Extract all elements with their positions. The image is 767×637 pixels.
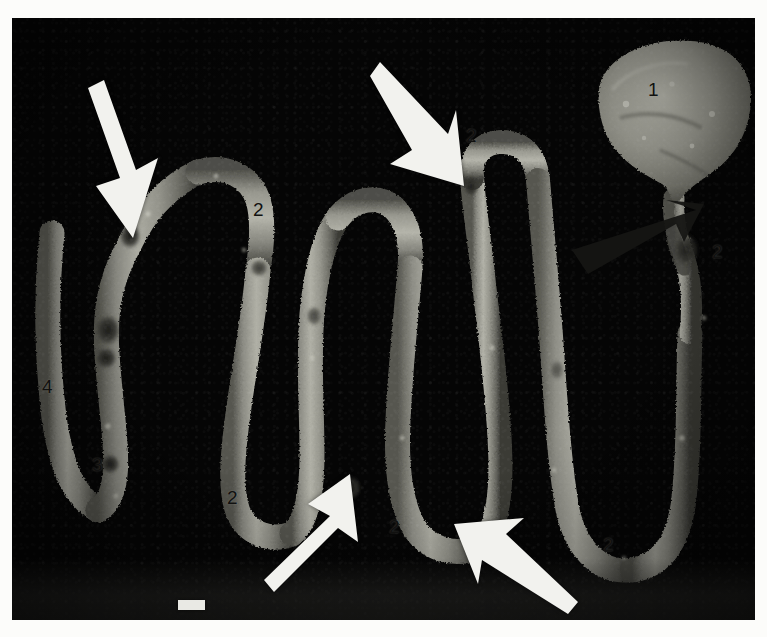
label-2-upper-left: 2 bbox=[253, 200, 264, 219]
label-1: 1 bbox=[648, 80, 659, 99]
label-2-lower-middle: 2 bbox=[389, 517, 400, 536]
label-2-upper-middle: 2 bbox=[466, 126, 477, 145]
scale-bar bbox=[178, 600, 205, 610]
label-3: 3 bbox=[92, 455, 103, 474]
bowel-specimen-artwork bbox=[12, 18, 755, 620]
label-4: 4 bbox=[42, 377, 53, 396]
label-2-lower-right: 2 bbox=[603, 535, 614, 554]
specimen-photograph: 1 2 2 2 2 2 2 3 4 bbox=[12, 18, 755, 620]
figure-page: 1 2 2 2 2 2 2 3 4 bbox=[0, 0, 767, 637]
label-2-lower-left: 2 bbox=[227, 488, 238, 507]
label-2-right: 2 bbox=[712, 242, 723, 261]
